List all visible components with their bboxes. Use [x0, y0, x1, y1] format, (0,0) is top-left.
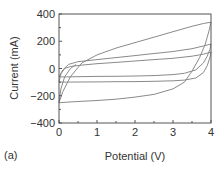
- y-axis-title: Current (mA): [8, 36, 20, 100]
- x-axis-title: Potential (V): [105, 150, 166, 162]
- x-tick-label: 2: [132, 126, 138, 138]
- x-tick-label: 0: [56, 126, 62, 138]
- y-tick-label: −200: [30, 90, 55, 102]
- plot-frame: [59, 14, 211, 123]
- x-tick-label: 4: [208, 126, 214, 138]
- series-loop-small: [59, 52, 211, 82]
- series-loop-medium: [59, 44, 211, 77]
- y-tick-label: −400: [30, 117, 55, 129]
- x-tick-label: 3: [170, 126, 176, 138]
- y-tick-label: 400: [37, 8, 55, 20]
- series-loop-large: [59, 22, 211, 103]
- x-tick-label: 1: [94, 126, 100, 138]
- y-tick-label: 0: [49, 63, 55, 75]
- panel-label: (a): [4, 149, 17, 161]
- cv-chart: 01234 −400−2000200400 Potential (V) Curr…: [0, 0, 223, 172]
- plot-area: [59, 22, 211, 103]
- y-tick-label: 200: [37, 35, 55, 47]
- y-axis: −400−2000200400: [30, 8, 62, 129]
